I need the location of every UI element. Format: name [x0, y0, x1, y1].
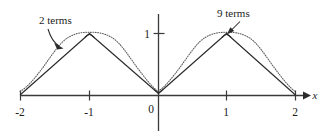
- x-tick-label-2: 2: [292, 106, 298, 118]
- y-tick-label-1: 1: [144, 28, 150, 40]
- triangle-wave-fourier-plot: -2 -1 0 1 2 1 x 2 terms 9 terms: [0, 0, 327, 140]
- x-tick-label--2: -2: [15, 106, 25, 118]
- leader-arrowhead-2-terms: [54, 43, 63, 50]
- leader-line-2-terms: [48, 29, 59, 46]
- x-axis-arrowhead: [303, 92, 311, 100]
- figure-canvas: -2 -1 0 1 2 1 x 2 terms 9 terms: [0, 0, 327, 140]
- annotation-label-9-terms: 9 terms: [217, 7, 250, 19]
- annotation-label-2-terms: 2 terms: [39, 14, 72, 26]
- axes-group: [20, 14, 311, 131]
- x-tick-label--1: -1: [84, 106, 94, 118]
- tick-labels-group: -2 -1 0 1 2 1: [15, 28, 298, 119]
- annotation-2-terms-leader: [48, 29, 64, 50]
- curve-9-terms: [20, 34, 296, 96]
- x-tick-label-0: 0: [148, 103, 154, 115]
- x-tick-label-1: 1: [223, 106, 229, 118]
- x-axis-label: x: [312, 89, 318, 101]
- curve-2-terms: [20, 32, 295, 91]
